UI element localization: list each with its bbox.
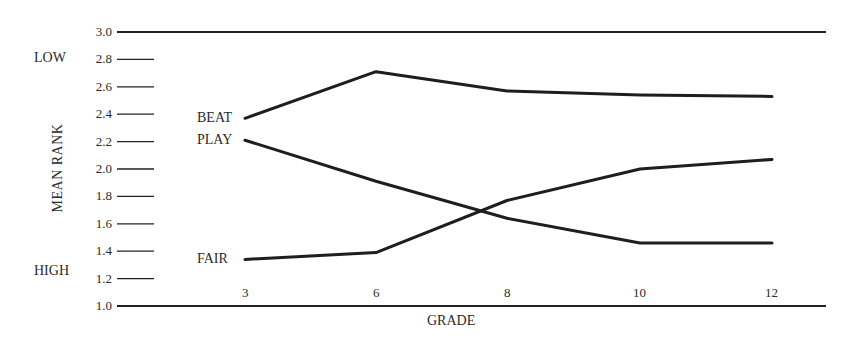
y-tick-label: 1.4	[72, 244, 112, 257]
y-tick-label: 2.8	[72, 52, 112, 65]
y-tick-label: 2.6	[72, 80, 112, 93]
y-tick-label: 2.2	[72, 135, 112, 148]
y-annotation-low: LOW	[34, 51, 66, 65]
series-line-beat	[245, 72, 772, 119]
y-tick-label: 1.2	[72, 272, 112, 285]
y-tick-label: 2.4	[72, 107, 112, 120]
y-tick-label: 2.0	[72, 162, 112, 175]
y-annotation-high: HIGH	[34, 264, 69, 278]
series-label-fair: FAIR	[197, 252, 228, 266]
series-label-beat: BEAT	[197, 111, 232, 125]
y-tick-label: 3.0	[72, 25, 112, 38]
series-label-play: PLAY	[197, 133, 232, 147]
y-tick-label: 1.0	[72, 299, 112, 312]
x-tick-label: 10	[633, 286, 646, 300]
x-tick-label: 6	[373, 286, 380, 300]
y-tick-label: 1.8	[72, 189, 112, 202]
chart-svg	[0, 0, 854, 337]
x-tick-label: 8	[504, 286, 511, 300]
series-line-play	[245, 140, 772, 243]
x-tick-label: 12	[765, 286, 778, 300]
x-tick-label: 3	[242, 286, 249, 300]
y-tick-label: 1.6	[72, 217, 112, 230]
y-axis-label: MEAN RANK	[50, 124, 66, 213]
x-axis-label: GRADE	[427, 314, 475, 328]
